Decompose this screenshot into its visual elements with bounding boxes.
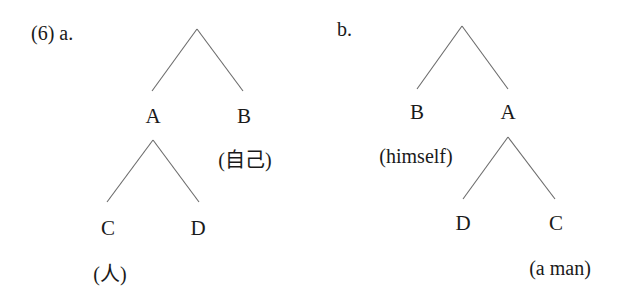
example-number: (6) — [31, 22, 54, 44]
example-label-a: (6) a. — [31, 23, 73, 43]
tree-a-gloss-C: (人) — [93, 264, 126, 284]
tree-b-root-right-branch — [462, 26, 508, 89]
tree-a-gloss-B: (自己) — [218, 150, 271, 170]
tree-b-gloss-C: (a man) — [529, 258, 591, 278]
tree-a-root-right-branch — [197, 29, 243, 91]
tree-b-node-B: B — [410, 102, 424, 123]
tree-a-node-A: A — [145, 106, 160, 127]
tree-b-node-C: C — [549, 213, 563, 234]
tree-a-A-right-branch — [153, 140, 199, 202]
tree-a-A-left-branch — [107, 140, 153, 202]
tree-b-A-left-branch — [463, 137, 508, 199]
tree-b-label: b. — [337, 18, 352, 40]
tree-a-label: a. — [59, 22, 73, 44]
tree-b-root-left-branch — [417, 26, 462, 89]
tree-a-root-left-branch — [152, 29, 197, 91]
tree-b-A-right-branch — [508, 137, 555, 199]
tree-a-node-C: C — [101, 218, 115, 239]
tree-a-node-D: D — [190, 218, 205, 239]
tree-b-node-D: D — [455, 213, 470, 234]
tree-b-gloss-B: (himself) — [379, 146, 452, 166]
tree-a-node-B: B — [237, 106, 251, 127]
tree-b-node-A: A — [500, 102, 515, 123]
example-label-b: b. — [337, 19, 352, 39]
